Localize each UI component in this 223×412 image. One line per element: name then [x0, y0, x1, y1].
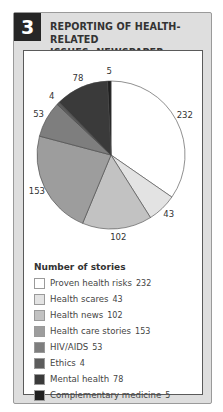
legend-item: Ethics4 [34, 355, 170, 371]
legend-item: Complementary medicine5 [34, 387, 170, 403]
slice-value-label: 5 [106, 66, 111, 76]
legend-item: Health care stories153 [34, 323, 170, 339]
figure-number-badge: 3 [14, 13, 41, 41]
legend-label: Proven health risks [50, 278, 132, 288]
legend-label: HIV/AIDS [50, 342, 88, 352]
legend-swatch [34, 358, 45, 369]
title-line-1: REPORTING OF HEALTH-RELATED [50, 20, 210, 46]
legend-item: Mental health78 [34, 371, 170, 387]
slice-value-label: 78 [73, 73, 84, 83]
legend-item: Health scares43 [34, 291, 170, 307]
legend: Number of stories Proven health risks232… [34, 262, 170, 403]
legend-label: Ethics [50, 358, 76, 368]
legend-swatch [34, 342, 45, 353]
figure-frame: 3 REPORTING OF HEALTH-RELATED ISSUES: NE… [13, 12, 212, 404]
legend-item: Health news102 [34, 307, 170, 323]
legend-label: Health scares [50, 294, 109, 304]
legend-value: 43 [113, 295, 123, 304]
legend-value: 153 [135, 327, 150, 336]
legend-label: Mental health [50, 374, 109, 384]
legend-label: Complementary medicine [50, 390, 161, 400]
slice-value-label: 153 [29, 186, 45, 196]
legend-value: 4 [80, 359, 85, 368]
legend-items: Proven health risks232Health scares43Hea… [34, 275, 170, 403]
legend-swatch [34, 374, 45, 385]
slice-value-label: 232 [177, 110, 193, 120]
legend-label: Health news [50, 310, 103, 320]
legend-label: Health care stories [50, 326, 131, 336]
legend-swatch [34, 294, 45, 305]
slice-value-label: 53 [33, 109, 44, 119]
legend-value: 232 [136, 279, 151, 288]
legend-item: Proven health risks232 [34, 275, 170, 291]
legend-swatch [34, 278, 45, 289]
legend-value: 5 [165, 391, 170, 400]
chart-panel: 23243102153534785 Number of stories Prov… [23, 50, 203, 395]
legend-title: Number of stories [34, 262, 170, 272]
slice-value-label: 4 [49, 91, 54, 101]
legend-value: 78 [113, 375, 123, 384]
legend-item: HIV/AIDS53 [34, 339, 170, 355]
legend-swatch [34, 310, 45, 321]
slice-value-label: 102 [110, 232, 126, 242]
pie-chart [24, 51, 202, 261]
legend-swatch [34, 326, 45, 337]
legend-swatch [34, 390, 45, 401]
legend-value: 53 [92, 343, 102, 352]
legend-value: 102 [107, 311, 122, 320]
slice-value-label: 43 [163, 209, 174, 219]
